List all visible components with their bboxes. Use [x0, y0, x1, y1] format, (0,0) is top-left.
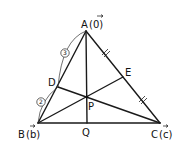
cevian-aq	[86, 31, 87, 123]
svg-text:(0): (0)	[89, 19, 103, 30]
svg-text:A: A	[81, 19, 88, 30]
label-a: A (0)	[81, 15, 103, 31]
label-e: E	[125, 67, 131, 78]
svg-text:(c): (c)	[159, 129, 172, 140]
ratio-badge-3: 3	[61, 49, 69, 57]
label-b: B (b)	[18, 125, 40, 141]
svg-text:C: C	[151, 129, 158, 140]
svg-text:3: 3	[63, 49, 67, 56]
svg-text:B: B	[18, 129, 25, 140]
label-c: C (c)	[151, 125, 172, 141]
label-q: Q	[82, 127, 90, 138]
side-ab	[38, 31, 86, 123]
triangle-diagram: 3 2 A (0) B (b) C (c) D E P Q	[0, 0, 189, 150]
ratio-badge-2: 2	[37, 98, 45, 106]
label-d: D	[48, 77, 56, 88]
svg-text:(b): (b)	[26, 129, 40, 140]
svg-text:2: 2	[39, 98, 43, 105]
point-p-dot	[86, 96, 89, 99]
label-p: P	[88, 101, 94, 112]
